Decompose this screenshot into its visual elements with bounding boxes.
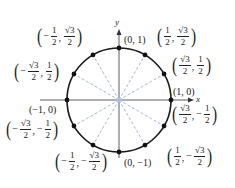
numerator: 1 [204,104,211,115]
right-paren: ) [191,25,196,47]
point-label-90: (0, 1) [124,34,146,45]
point-label-240: (−12,−√32) [54,150,108,172]
point-label-60: (12,√32) [156,25,197,47]
fraction: 12 [46,61,53,82]
numerator: √3 [194,146,205,157]
right-paren: ) [208,145,213,167]
radial-line [119,74,164,100]
denominator: 2 [175,157,180,167]
fraction: 12 [164,26,171,47]
denominator: 2 [197,157,202,167]
left-paren: ( [6,118,11,140]
left-paren: ( [14,60,19,82]
fraction: 12 [45,119,52,140]
circle-point [91,143,96,148]
comma: , [182,153,185,167]
fraction: √32 [179,104,190,125]
numerator: √3 [179,104,190,115]
point-label-120: (−12,√32) [36,25,84,47]
numerator: √3 [177,26,188,37]
x-axis-arrow-icon [188,98,194,103]
fraction: √32 [177,26,188,47]
circle-point [65,98,70,103]
left-paren: ( [172,54,177,76]
left-paren: ( [55,150,60,172]
numerator: √3 [64,26,75,37]
right-paren: ) [102,150,107,172]
denominator: 2 [23,130,28,140]
point-label-180: (−1, 0) [29,104,56,115]
comma: , [58,33,61,47]
minus-sign: − [186,151,192,161]
comma: , [172,33,175,47]
comma: , [40,68,43,82]
right-paren: ) [206,54,211,76]
numerator: 1 [45,119,52,130]
denominator: 2 [183,115,188,125]
circle-point [117,150,122,155]
circle-point [162,72,167,77]
radial-line [74,100,119,126]
fraction: 12 [174,146,181,167]
minus-sign: − [81,156,87,166]
numerator: √3 [179,55,190,66]
denominator: 2 [205,115,210,125]
denominator: 2 [165,37,170,47]
fraction: √32 [194,146,205,167]
point-label-30: (√32,12) [171,54,212,76]
denominator: 2 [181,37,186,47]
denominator: 2 [67,37,72,47]
point-label-150: (−√32,12) [13,60,61,82]
comma: , [32,126,35,140]
radial-line [93,100,119,145]
numerator: √3 [89,151,100,162]
fraction: √32 [64,26,75,47]
left-paren: ( [172,103,177,125]
minus-sign: − [37,124,43,134]
minus-sign: − [196,109,202,119]
minus-sign: − [12,124,18,134]
point-label-210: (−√32,−12) [5,118,59,140]
circle-point [143,53,148,58]
radial-line [119,100,145,145]
denominator: 2 [198,66,203,76]
minus-sign: − [43,31,49,41]
y-axis-arrow-icon [117,29,122,35]
denominator: 2 [47,72,52,82]
point-label-0: (1, 0) [173,86,195,97]
numerator: 1 [69,151,76,162]
numerator: 1 [197,55,204,66]
point-label-270: (0, −1) [124,157,151,168]
circle-point [72,72,77,77]
radial-line [119,100,164,126]
point-label-300: (12,−√32) [166,145,214,167]
denominator: 2 [46,130,51,140]
radial-line [119,55,145,100]
circle-point [117,46,122,51]
numerator: 1 [174,146,181,157]
fraction: √32 [89,151,100,172]
right-paren: ) [213,103,218,125]
right-paren: ) [78,25,83,47]
fraction: 12 [197,55,204,76]
circle-point [143,143,148,148]
radial-line [74,74,119,100]
denominator: 2 [70,162,75,172]
radial-line [93,55,119,100]
numerator: √3 [28,61,39,72]
left-paren: ( [157,25,162,47]
comma: , [76,158,79,172]
fraction: 12 [51,26,58,47]
denominator: 2 [31,72,36,82]
left-paren: ( [37,25,42,47]
denominator: 2 [183,66,188,76]
left-paren: ( [167,145,172,167]
fraction: √32 [28,61,39,82]
minus-sign: − [61,156,67,166]
y-axis-label: y [115,17,119,27]
numerator: √3 [20,119,31,130]
comma: , [192,62,195,76]
origin-highlight [117,98,122,103]
numerator: 1 [46,61,53,72]
numerator: 1 [164,26,171,37]
